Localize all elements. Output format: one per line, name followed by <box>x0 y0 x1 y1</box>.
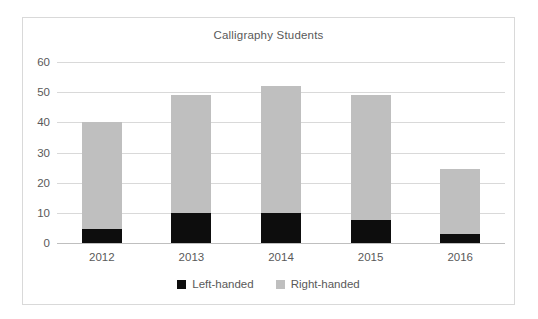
square-swatch-black <box>177 280 186 289</box>
y-axis-tick-label: 30 <box>37 147 50 159</box>
legend-label: Left-handed <box>192 278 253 290</box>
axis-baseline: 0 <box>57 243 505 244</box>
bar-segment-right-handed <box>440 169 480 234</box>
bar-segment-left-handed <box>261 213 301 243</box>
chart-title: Calligraphy Students <box>23 29 514 41</box>
x-axis-tick-label: 2012 <box>82 251 122 263</box>
bars-layer: 20122013201420152016 <box>57 62 505 243</box>
legend-item[interactable]: Right-handed <box>276 278 360 290</box>
bar-segment-right-handed <box>351 95 391 220</box>
y-axis-tick-label: 50 <box>37 86 50 98</box>
bar-segment-right-handed <box>261 86 301 213</box>
y-axis-tick-label: 60 <box>37 56 50 68</box>
bar-group: 2014 <box>261 86 301 243</box>
bar-segment-right-handed <box>171 95 211 213</box>
y-axis-tick-label: 10 <box>37 207 50 219</box>
chart-container: Calligraphy Students 0102030405060 20122… <box>22 17 515 305</box>
square-swatch-gray <box>276 280 285 289</box>
legend-label: Right-handed <box>291 278 360 290</box>
bar-segment-right-handed <box>82 122 122 229</box>
y-axis-tick-label: 40 <box>37 116 50 128</box>
bar-group: 2016 <box>440 169 480 243</box>
bar-segment-left-handed <box>82 229 122 243</box>
x-axis-tick-label: 2016 <box>440 251 480 263</box>
chart-legend: Left-handedRight-handed <box>23 278 514 290</box>
bar-group: 2015 <box>351 95 391 243</box>
x-axis-tick-label: 2014 <box>261 251 301 263</box>
bar-group: 2012 <box>82 122 122 243</box>
y-axis-tick-label: 0 <box>44 237 50 249</box>
bar-group: 2013 <box>171 95 211 243</box>
legend-item[interactable]: Left-handed <box>177 278 253 290</box>
bar-segment-left-handed <box>171 213 211 243</box>
y-axis-tick-label: 20 <box>37 177 50 189</box>
bar-segment-left-handed <box>440 234 480 243</box>
x-axis-tick-label: 2013 <box>171 251 211 263</box>
bar-segment-left-handed <box>351 220 391 243</box>
plot-area: 0102030405060 20122013201420152016 <box>57 62 505 243</box>
x-axis-tick-label: 2015 <box>351 251 391 263</box>
